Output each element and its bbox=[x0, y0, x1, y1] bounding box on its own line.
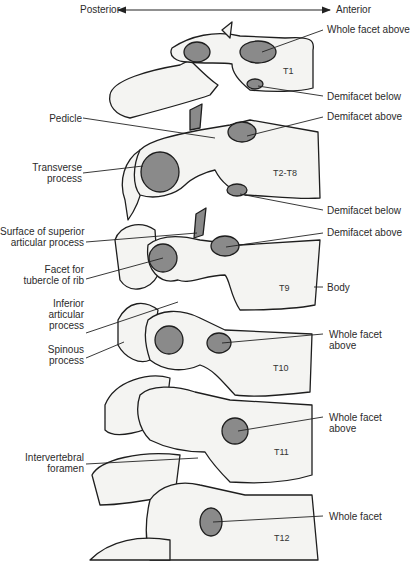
anterior-label: Anterior bbox=[336, 4, 371, 15]
label-demifacet-below-t1: Demifacet below bbox=[327, 91, 401, 102]
label-line-2: above bbox=[329, 340, 382, 351]
vertebra-label-t9: T9 bbox=[279, 283, 290, 293]
vertebra-label-t12: T12 bbox=[274, 533, 290, 543]
label-whole-facet-t12: Whole facet bbox=[329, 511, 382, 522]
label-whole-facet-above-t10: Whole facet above bbox=[329, 329, 382, 351]
label-line-1: Transverse bbox=[0, 162, 82, 173]
vertebra-label-t10: T10 bbox=[273, 363, 289, 373]
vertebra-label-t1: T1 bbox=[283, 66, 294, 76]
label-line-2: process bbox=[0, 355, 84, 366]
label-body: Body bbox=[327, 282, 350, 293]
label-surface-superior-articular-process: Surface of superior articular process bbox=[0, 226, 84, 248]
label-line-2: foramen bbox=[0, 463, 84, 474]
label-whole-facet-above-t1: Whole facet above bbox=[327, 24, 410, 35]
label-whole-facet-above-t11: Whole facet above bbox=[329, 412, 382, 434]
label-line-1: Whole facet bbox=[329, 412, 382, 423]
label-line-2: above bbox=[329, 423, 382, 434]
label-pedicle: Pedicle bbox=[0, 113, 82, 124]
label-intervertebral-foramen: Intervertebral foramen bbox=[0, 452, 84, 474]
label-line-2: articular process bbox=[0, 237, 84, 248]
label-line-1: Spinous bbox=[0, 344, 84, 355]
vertebra-label-t2-t8: T2-T8 bbox=[273, 168, 297, 178]
label-line-1: Surface of superior bbox=[0, 226, 84, 237]
label-spinous-process: Spinous process bbox=[0, 344, 84, 366]
label-line-1: Inferior bbox=[0, 298, 84, 309]
label-line-2: tubercle of rib bbox=[0, 275, 84, 286]
posterior-label: Posterior bbox=[80, 4, 120, 15]
label-line-3: process bbox=[0, 320, 84, 331]
label-line-2: process bbox=[0, 173, 82, 184]
label-inferior-articular-process: Inferior articular process bbox=[0, 298, 84, 331]
label-demifacet-above-t9: Demifacet above bbox=[327, 227, 402, 238]
label-facet-tubercle-rib: Facet for tubercle of rib bbox=[0, 264, 84, 286]
vertebra-t2-t8 bbox=[122, 104, 320, 220]
label-line-1: Facet for bbox=[0, 264, 84, 275]
label-line-2: articular bbox=[0, 309, 84, 320]
vertebra-label-t11: T11 bbox=[274, 447, 289, 457]
label-line-1: Intervertebral bbox=[0, 452, 84, 463]
label-line-1: Whole facet bbox=[329, 329, 382, 340]
vertebra-t9 bbox=[115, 208, 320, 310]
label-demifacet-below-t8: Demifacet below bbox=[327, 205, 401, 216]
label-transverse-process: Transverse process bbox=[0, 162, 82, 184]
label-demifacet-above-t2: Demifacet above bbox=[327, 111, 402, 122]
